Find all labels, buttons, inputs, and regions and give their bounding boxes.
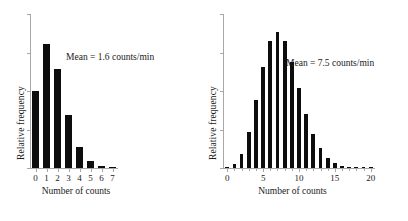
y-axis-tick: [27, 130, 30, 131]
x-axis-tick-minor: [306, 169, 307, 171]
x-axis-tick-major: [69, 169, 70, 172]
x-axis-label-left: Number of counts: [6, 186, 146, 196]
histogram-bar: [65, 115, 72, 168]
x-axis-tick-label: 15: [325, 173, 345, 183]
x-axis-tick-minor: [242, 169, 243, 171]
mean-annotation-left: Mean = 1.6 counts/min: [66, 52, 154, 62]
histogram-bar: [109, 167, 116, 168]
x-axis-tick-major: [335, 169, 336, 172]
y-axis-line-right: [223, 14, 224, 169]
y-axis-label-right: Relative frequency: [208, 86, 218, 160]
histogram-bar: [233, 164, 237, 168]
histogram-bar: [247, 132, 251, 168]
histogram-bar: [240, 154, 244, 168]
x-axis-tick-minor: [292, 169, 293, 171]
histogram-bar: [369, 167, 373, 168]
x-axis-tick-minor: [328, 169, 329, 171]
x-axis-tick-major: [263, 169, 264, 172]
mean-annotation-right: Mean = 7.5 counts/min: [286, 58, 374, 68]
histogram-bar: [76, 147, 83, 168]
y-axis-tick: [27, 91, 30, 92]
x-axis-tick-minor: [364, 169, 365, 171]
x-axis-tick-major: [36, 169, 37, 172]
histogram-bar: [290, 62, 294, 168]
chart-panel-right: Relative frequency Mean = 7.5 counts/min…: [190, 0, 408, 221]
x-axis-tick-minor: [342, 169, 343, 171]
histogram-bar: [362, 167, 366, 168]
histogram-bar: [319, 148, 323, 168]
x-axis-tick-minor: [249, 169, 250, 171]
x-axis-label-right: Number of counts: [200, 186, 385, 196]
plot-area-left: [30, 14, 118, 169]
x-axis-tick-minor: [277, 169, 278, 171]
x-axis-tick-major: [102, 169, 103, 172]
chart-panel-left: Relative frequency Mean = 1.6 counts/min…: [0, 0, 190, 221]
x-axis-tick-major: [47, 169, 48, 172]
x-axis-tick-minor: [349, 169, 350, 171]
x-axis-tick-major: [113, 169, 114, 172]
y-axis-line-left: [30, 14, 31, 169]
y-axis-tick: [27, 14, 30, 15]
histogram-bar: [43, 44, 50, 168]
x-axis-tick-minor: [356, 169, 357, 171]
x-axis-tick-label: 5: [253, 173, 273, 183]
y-axis-tick: [27, 168, 30, 169]
y-axis-tick: [220, 53, 223, 54]
plot-area-right: [223, 14, 375, 169]
x-axis-tick-major: [227, 169, 228, 172]
x-axis-tick-label: 10: [289, 173, 309, 183]
y-axis-tick: [220, 168, 223, 169]
x-axis-tick-minor: [256, 169, 257, 171]
histogram-bar: [347, 167, 351, 168]
x-axis-tick-label: 7: [103, 173, 123, 183]
histogram-bar: [87, 161, 94, 168]
x-axis-tick-major: [80, 169, 81, 172]
histogram-bar: [333, 163, 337, 168]
histogram-bar: [311, 134, 315, 168]
x-axis-tick-minor: [321, 169, 322, 171]
y-axis-tick: [220, 130, 223, 131]
figure-poisson-histograms: Relative frequency Mean = 1.6 counts/min…: [0, 0, 408, 221]
x-axis-tick-minor: [270, 169, 271, 171]
histogram-bar: [354, 167, 358, 168]
histogram-bar: [98, 166, 105, 168]
x-axis-tick-label: 0: [217, 173, 237, 183]
histogram-bar: [276, 32, 280, 168]
histogram-bar: [32, 91, 39, 168]
histogram-bar: [340, 166, 344, 168]
y-axis-tick: [220, 14, 223, 15]
histogram-bar: [254, 100, 258, 168]
x-axis-line-left: [30, 168, 118, 169]
histogram-bar: [225, 167, 229, 168]
y-axis-tick: [27, 53, 30, 54]
x-axis-tick-minor: [313, 169, 314, 171]
x-axis-tick-major: [299, 169, 300, 172]
histogram-bar: [268, 41, 272, 168]
x-axis-tick-minor: [285, 169, 286, 171]
x-axis-tick-major: [58, 169, 59, 172]
x-axis-tick-label: 20: [361, 173, 381, 183]
x-axis-tick-major: [371, 169, 372, 172]
x-axis-tick-minor: [234, 169, 235, 171]
y-axis-label-left: Relative frequency: [16, 86, 26, 160]
y-axis-tick: [220, 91, 223, 92]
histogram-bar: [54, 69, 61, 168]
histogram-bar: [326, 158, 330, 168]
histogram-bar: [304, 114, 308, 168]
histogram-bar: [261, 67, 265, 168]
x-axis-tick-major: [91, 169, 92, 172]
histogram-bar: [297, 88, 301, 168]
